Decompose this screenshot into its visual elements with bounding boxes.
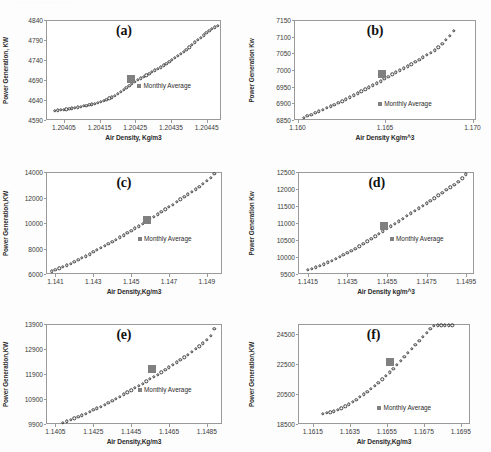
y-tick-e-1: 10900 (12, 396, 43, 403)
y-tick-a-1: 4640 (12, 97, 43, 104)
x-tick-f-0: 1.1615 (303, 428, 323, 435)
chart-panel-c: Power Generation,KW600080001000012000140… (0, 160, 245, 306)
y-tick-a-4: 4790 (12, 37, 43, 44)
x-tick-a-2: 1.20425 (123, 124, 147, 131)
x-tickmark-f-4 (461, 424, 462, 427)
x-tickmark-a-2 (135, 120, 136, 123)
panel-letter-a: (a) (116, 23, 132, 39)
legend-f: Monthly Average (377, 404, 431, 411)
panel-letter-c: (c) (116, 175, 131, 191)
x-tick-f-1: 1.1635 (340, 428, 360, 435)
x-tick-e-0: 1.1405 (45, 428, 65, 435)
x-tickmark-f-1 (350, 424, 351, 427)
x-tickmark-a-3 (171, 120, 172, 123)
y-tickmark-d-0 (296, 274, 299, 275)
y-tick-d-6: 12500 (258, 169, 295, 176)
x-tickmark-c-1 (93, 274, 94, 277)
y-axis-label-e: Power Generation,KW (0, 324, 11, 424)
y-axis-label-text-e: Power Generation,KW (2, 341, 9, 406)
y-axis-label-text-c: Power Generation,KW (2, 190, 9, 255)
legend-label-a: Monthly Average (144, 82, 192, 89)
x-tick-a-4: 1.20445 (195, 124, 219, 131)
x-tickmark-e-2 (131, 424, 132, 427)
y-tickmark-c-0 (44, 274, 47, 275)
x-tickmark-b-0 (298, 120, 299, 123)
y-tick-f-3: 24500 (258, 331, 295, 338)
x-tickmark-e-3 (169, 424, 170, 427)
x-tick-c-1: 1.143 (85, 278, 102, 285)
y-tick-b-2: 6950 (258, 83, 291, 90)
x-tickmark-f-0 (313, 424, 314, 427)
x-tickmark-d-3 (427, 274, 428, 277)
x-axis-label-e: Air Density,Kg/m3 (46, 438, 222, 445)
legend-c: Monthly Average (138, 235, 192, 242)
y-axis-label-c: Power Generation,KW (0, 172, 11, 274)
y-tick-e-3: 12900 (12, 346, 43, 353)
y-tick-d-2: 10500 (258, 237, 295, 244)
x-tick-c-2: 1.145 (123, 278, 140, 285)
monthly-average-marker-d (380, 222, 388, 230)
x-axis-label-b: Air Density Kg/m^3 (294, 134, 476, 141)
monthly-average-marker-f (386, 358, 394, 366)
x-tick-f-4: 1.1695 (451, 428, 471, 435)
x-tickmark-d-2 (387, 274, 388, 277)
y-axis-label-text-f: Power Generation,KW (248, 341, 255, 406)
legend-swatch-icon-f (377, 406, 381, 410)
panel-letter-e: (e) (116, 327, 131, 343)
x-tick-b-2: 1.170 (464, 124, 481, 131)
y-tick-e-2: 11900 (12, 371, 43, 378)
y-tick-c-0: 6000 (12, 271, 43, 278)
y-tick-b-0: 6850 (258, 117, 291, 124)
legend-label-e: Monthly Average (144, 386, 192, 393)
legend-swatch-icon-a (137, 84, 141, 88)
y-tick-e-0: 9900 (12, 421, 43, 428)
y-tick-d-0: 9500 (258, 271, 295, 278)
y-tick-f-2: 22500 (258, 361, 295, 368)
y-tick-a-3: 4740 (12, 57, 43, 64)
x-tickmark-c-2 (131, 274, 132, 277)
y-axis-label-text-d: Power Generation Kw (248, 191, 255, 255)
x-axis-label-c: Air Density,Kg/m3 (46, 288, 222, 295)
y-tick-a-5: 4840 (12, 17, 43, 24)
y-tick-d-5: 12000 (258, 186, 295, 193)
x-tickmark-c-0 (55, 274, 56, 277)
x-tick-f-2: 1.1655 (377, 428, 397, 435)
y-tick-b-4: 7050 (258, 50, 291, 57)
y-tick-c-1: 8000 (12, 245, 43, 252)
x-tick-d-4: 1.1495 (456, 278, 476, 285)
legend-e: Monthly Average (138, 386, 192, 393)
x-tick-a-0: 1.20405 (52, 124, 76, 131)
x-tickmark-e-4 (207, 424, 208, 427)
x-tickmark-a-0 (64, 120, 65, 123)
x-axis-label-d: Air Density kg/m^3 (298, 288, 474, 295)
y-tick-d-3: 11000 (258, 220, 295, 227)
x-tick-a-3: 1.20435 (159, 124, 183, 131)
x-tick-d-2: 1.1455 (377, 278, 397, 285)
x-tick-b-0: 1.160 (289, 124, 306, 131)
y-axis-label-text-a: Power Generation, KW (2, 37, 9, 104)
y-tick-a-2: 4690 (12, 77, 43, 84)
x-tick-e-1: 1.1425 (83, 428, 103, 435)
monthly-average-marker-e (148, 365, 156, 373)
y-tick-c-2: 10000 (12, 220, 43, 227)
x-tickmark-b-2 (473, 120, 474, 123)
legend-d: Monthly Average (390, 235, 444, 242)
legend-label-d: Monthly Average (396, 235, 444, 242)
x-tick-e-3: 1.1465 (159, 428, 179, 435)
y-tickmark-b-0 (292, 120, 295, 121)
legend-swatch-icon-d (390, 237, 394, 241)
chart-panel-f: Power Generation,KW185002050022500245001… (246, 312, 491, 452)
y-tick-b-5: 7100 (258, 33, 291, 40)
chart-panel-b: Power Generation Kw685069006950700070507… (246, 8, 491, 152)
x-tick-d-0: 1.1415 (298, 278, 318, 285)
x-tickmark-d-1 (347, 274, 348, 277)
plot-area-e (46, 324, 222, 424)
panel-letter-d: (d) (368, 175, 385, 191)
x-tick-d-3: 1.1475 (416, 278, 436, 285)
y-tickmark-a-0 (44, 120, 47, 121)
x-tickmark-f-2 (387, 424, 388, 427)
x-tick-b-1: 1.165 (377, 124, 394, 131)
x-tickmark-b-1 (385, 120, 386, 123)
panel-letter-f: (f) (367, 327, 380, 343)
y-tick-b-1: 6900 (258, 100, 291, 107)
